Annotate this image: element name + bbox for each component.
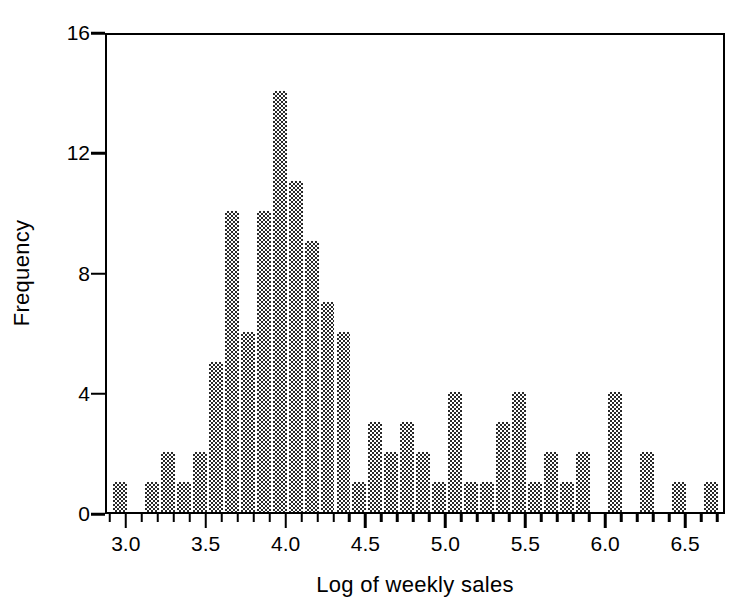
x-axis-minor-tick bbox=[716, 514, 719, 522]
x-axis-major-tick bbox=[444, 514, 447, 528]
x-axis-minor-tick bbox=[588, 514, 591, 522]
histogram-bar bbox=[559, 482, 575, 512]
x-axis-minor-tick bbox=[620, 514, 623, 522]
x-axis-major-tick bbox=[204, 514, 207, 528]
x-axis-minor-tick bbox=[508, 514, 511, 522]
histogram-bar bbox=[447, 392, 463, 512]
histogram-bar bbox=[703, 482, 719, 512]
y-axis-tick-label: 12 bbox=[67, 141, 90, 165]
x-axis-minor-tick bbox=[188, 514, 191, 522]
histogram-bar bbox=[351, 482, 367, 512]
histogram-bar bbox=[192, 452, 208, 512]
histogram-bar bbox=[575, 452, 591, 512]
histogram-bar bbox=[543, 452, 559, 512]
x-axis-minor-tick bbox=[380, 514, 383, 522]
histogram-bar bbox=[304, 241, 320, 512]
histogram-bar bbox=[383, 452, 399, 512]
x-axis-major-tick bbox=[284, 514, 287, 528]
x-axis-minor-tick bbox=[109, 514, 112, 522]
plot-area bbox=[105, 33, 725, 514]
x-axis-tick-label: 6.0 bbox=[591, 532, 620, 556]
histogram-bar bbox=[607, 392, 623, 512]
y-axis-tick-marks bbox=[89, 33, 105, 514]
histogram-bar bbox=[495, 422, 511, 512]
x-axis-major-tick bbox=[125, 514, 128, 528]
x-axis-tick-label: 3.0 bbox=[111, 532, 140, 556]
x-axis-minor-tick bbox=[252, 514, 255, 522]
histogram-bar bbox=[320, 302, 336, 512]
histogram-bar bbox=[336, 332, 352, 512]
x-axis-minor-tick bbox=[540, 514, 543, 522]
x-axis-minor-tick bbox=[428, 514, 431, 522]
histogram-bar bbox=[144, 482, 160, 512]
y-axis-major-tick bbox=[91, 152, 105, 155]
histogram-bar bbox=[256, 211, 272, 512]
x-axis-tick-label: 6.5 bbox=[670, 532, 699, 556]
x-axis-major-tick bbox=[524, 514, 527, 528]
x-axis-major-tick bbox=[684, 514, 687, 528]
x-axis-title: Log of weekly sales bbox=[105, 572, 725, 598]
x-axis-major-tick bbox=[364, 514, 367, 528]
x-axis-minor-tick bbox=[652, 514, 655, 522]
x-axis-minor-tick bbox=[476, 514, 479, 522]
x-axis-minor-tick bbox=[460, 514, 463, 522]
x-axis-minor-tick bbox=[348, 514, 351, 522]
histogram-bar bbox=[463, 482, 479, 512]
histogram-bar bbox=[415, 452, 431, 512]
histogram-bar bbox=[511, 392, 527, 512]
x-axis-minor-tick bbox=[332, 514, 335, 522]
x-axis-minor-tick bbox=[316, 514, 319, 522]
y-axis-major-tick bbox=[91, 272, 105, 275]
x-axis-minor-tick bbox=[300, 514, 303, 522]
x-axis-tick-marks bbox=[105, 514, 725, 530]
x-axis-minor-tick bbox=[572, 514, 575, 522]
x-axis-minor-tick bbox=[220, 514, 223, 522]
histogram-bar bbox=[224, 211, 240, 512]
x-axis-minor-tick bbox=[556, 514, 559, 522]
x-axis-tick-label: 5.5 bbox=[511, 532, 540, 556]
histogram-bar bbox=[639, 452, 655, 512]
y-axis-major-tick bbox=[91, 32, 105, 35]
y-axis-tick-label: 16 bbox=[67, 21, 90, 45]
histogram-bar bbox=[367, 422, 383, 512]
x-axis-tick-labels: 3.03.54.04.55.05.56.06.5 bbox=[105, 532, 725, 562]
x-axis-minor-tick bbox=[412, 514, 415, 522]
x-axis-tick-label: 3.5 bbox=[191, 532, 220, 556]
y-axis-major-tick bbox=[91, 513, 105, 516]
y-axis-title-text: Frequency bbox=[9, 219, 35, 326]
x-axis-minor-tick bbox=[700, 514, 703, 522]
histogram-bar bbox=[176, 482, 192, 512]
histogram-figure: Frequency 0481216 3.03.54.04.55.05.56.06… bbox=[0, 0, 754, 615]
x-axis-tick-label: 4.0 bbox=[271, 532, 300, 556]
x-axis-minor-tick bbox=[396, 514, 399, 522]
x-axis-tick-label: 4.5 bbox=[351, 532, 380, 556]
histogram-bar bbox=[399, 422, 415, 512]
histogram-bar bbox=[527, 482, 543, 512]
x-axis-title-text: Log of weekly sales bbox=[316, 572, 514, 597]
x-axis-tick-label: 5.0 bbox=[431, 532, 460, 556]
x-axis-minor-tick bbox=[636, 514, 639, 522]
y-axis-major-tick bbox=[91, 393, 105, 396]
x-axis-minor-tick bbox=[492, 514, 495, 522]
histogram-bar bbox=[479, 482, 495, 512]
histogram-bar bbox=[288, 181, 304, 512]
x-axis-major-tick bbox=[604, 514, 607, 528]
x-axis-minor-tick bbox=[141, 514, 144, 522]
x-axis-minor-tick bbox=[156, 514, 159, 522]
histogram-bar bbox=[240, 332, 256, 512]
histogram-bar bbox=[431, 482, 447, 512]
histogram-bar bbox=[272, 91, 288, 512]
histogram-bars bbox=[107, 35, 723, 512]
x-axis-minor-tick bbox=[236, 514, 239, 522]
x-axis-minor-tick bbox=[668, 514, 671, 522]
y-axis-title: Frequency bbox=[0, 0, 44, 545]
x-axis-minor-tick bbox=[172, 514, 175, 522]
histogram-bar bbox=[160, 452, 176, 512]
x-axis-minor-tick bbox=[268, 514, 271, 522]
histogram-bar bbox=[208, 362, 224, 512]
histogram-bar bbox=[112, 482, 128, 512]
histogram-bar bbox=[671, 482, 687, 512]
